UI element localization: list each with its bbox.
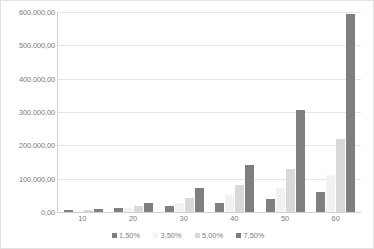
bar[interactable] xyxy=(124,208,133,212)
bar-group xyxy=(260,12,311,212)
legend-item[interactable]: 1,50% xyxy=(112,231,140,240)
x-axis-tick-label: 50 xyxy=(260,214,311,223)
y-axis-tick-label: 600.000,00 xyxy=(19,8,55,17)
legend-item[interactable]: 5,00% xyxy=(195,231,223,240)
bar-group xyxy=(109,12,160,212)
legend-label: 3,50% xyxy=(161,231,182,240)
chart-container: 0,00100.000,00200.000,00300.000,00400.00… xyxy=(0,0,374,249)
gridline xyxy=(57,212,361,213)
legend-item[interactable]: 7,50% xyxy=(236,231,264,240)
bar-group xyxy=(58,12,109,212)
bar[interactable] xyxy=(346,14,355,212)
legend-label: 7,50% xyxy=(243,231,264,240)
bar[interactable] xyxy=(144,203,153,212)
bar[interactable] xyxy=(175,203,184,212)
x-axis-tick-label: 60 xyxy=(310,214,361,223)
bar[interactable] xyxy=(225,195,234,212)
y-axis-tick-label: 400.000,00 xyxy=(19,74,55,83)
x-axis-tick-label: 20 xyxy=(108,214,159,223)
bar[interactable] xyxy=(276,188,285,212)
bar[interactable] xyxy=(185,198,194,212)
legend-swatch-icon xyxy=(236,233,241,238)
bar-group xyxy=(159,12,210,212)
bar[interactable] xyxy=(235,185,244,212)
bar[interactable] xyxy=(336,139,345,212)
bar[interactable] xyxy=(84,210,93,212)
bar-group xyxy=(210,12,261,212)
bar[interactable] xyxy=(74,211,83,212)
bar[interactable] xyxy=(316,192,325,212)
chart-legend: 1,50%3,50%5,00%7,50% xyxy=(1,231,374,240)
bar[interactable] xyxy=(215,203,224,212)
y-axis-tick-label: 200.000,00 xyxy=(19,141,55,150)
y-axis-tick-label: 0,00 xyxy=(41,208,55,217)
bar[interactable] xyxy=(134,206,143,212)
legend-swatch-icon xyxy=(153,233,158,238)
legend-label: 5,00% xyxy=(202,231,223,240)
bar[interactable] xyxy=(266,199,275,212)
legend-item[interactable]: 3,50% xyxy=(153,231,181,240)
y-axis-tick-label: 500.000,00 xyxy=(19,41,55,50)
bar-group xyxy=(311,12,362,212)
x-axis-tick-label: 10 xyxy=(57,214,108,223)
bar[interactable] xyxy=(195,188,204,212)
bar[interactable] xyxy=(286,169,295,212)
bar[interactable] xyxy=(326,175,335,212)
y-axis-tick-label: 100.000,00 xyxy=(19,174,55,183)
bar[interactable] xyxy=(114,208,123,212)
y-axis-tick-label: 300.000,00 xyxy=(19,108,55,117)
legend-label: 1,50% xyxy=(119,231,140,240)
legend-swatch-icon xyxy=(195,233,200,238)
bar[interactable] xyxy=(245,165,254,212)
x-axis-tick-label: 40 xyxy=(209,214,260,223)
x-axis-tick-labels: 102030405060 xyxy=(57,214,361,223)
plot-area xyxy=(57,12,361,212)
legend-swatch-icon xyxy=(112,233,117,238)
x-axis-tick-label: 30 xyxy=(158,214,209,223)
bar[interactable] xyxy=(64,210,73,212)
bar[interactable] xyxy=(296,110,305,212)
bar-series-container xyxy=(58,12,361,212)
bar[interactable] xyxy=(94,209,103,212)
bar[interactable] xyxy=(165,206,174,212)
